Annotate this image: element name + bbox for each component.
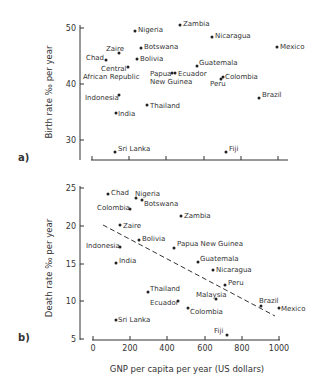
point-label: Chad — [86, 54, 104, 62]
point-label: Bolivia — [140, 55, 163, 63]
data-point — [138, 239, 141, 242]
point-label: Mexico — [280, 43, 304, 51]
point-label: Brazil — [262, 91, 282, 99]
points-b: Chad Nigeria Botswana Colombia Zambia Za… — [86, 189, 305, 337]
data-point — [134, 30, 137, 33]
y-tick-label: 50 — [66, 24, 76, 33]
point-label: Indonesia — [85, 94, 119, 102]
data-point — [226, 334, 229, 337]
y-tick-label: 15 — [66, 260, 76, 269]
data-point — [173, 247, 176, 250]
point-label: India — [119, 257, 136, 265]
point-label: Bolivia — [142, 235, 165, 243]
point-label: Malaysia — [196, 291, 227, 299]
point-label: Thailand — [149, 285, 180, 293]
points-a: Nigeria Zambia Nicaragua Mexico Botswana… — [83, 20, 304, 154]
y-tick-label: 10 — [66, 297, 76, 306]
point-label: African Republic — [83, 73, 140, 81]
x-tick-label: 0 — [90, 344, 95, 353]
data-point — [276, 46, 279, 49]
y-tick-label: 5 — [71, 335, 76, 344]
point-label: Ecuador — [150, 299, 179, 307]
data-point — [127, 66, 130, 69]
point-label: Guatemala — [199, 59, 238, 67]
point-label: Sri Lanka — [118, 316, 150, 324]
data-point — [105, 59, 108, 62]
data-point — [174, 72, 177, 75]
data-point — [115, 262, 118, 265]
y-axis-title-b: Death rate ‰ per year — [44, 218, 54, 317]
data-point — [107, 193, 110, 196]
y-tick-label: 25 — [66, 184, 76, 193]
point-label: Chad — [111, 189, 129, 197]
data-point — [140, 47, 143, 50]
point-label: Zambia — [183, 20, 210, 28]
point-label: Ecuador — [178, 70, 207, 78]
panel-label-a: a) — [18, 152, 29, 163]
point-label: Thailand — [149, 102, 180, 110]
panel-b-death-rate: 25 20 15 10 5 Death rate ‰ per year 0 20… — [18, 184, 305, 374]
data-point — [136, 58, 139, 61]
x-tick-label: 1000 — [269, 344, 289, 353]
point-label: Zaire — [106, 45, 124, 53]
point-label: Nigeria — [138, 26, 163, 34]
point-label: Zambia — [184, 212, 211, 220]
point-label: Botswana — [144, 43, 178, 51]
y-tick-label: 40 — [66, 80, 76, 89]
point-label: Guatemala — [200, 255, 239, 263]
data-point — [146, 104, 149, 107]
point-label: Colombia — [97, 204, 130, 212]
panel-a-birth-rate: 50 40 30 Birth rate ‰ per year a) Nigeri… — [18, 20, 304, 163]
point-label: Sri Lanka — [118, 145, 150, 153]
data-point — [224, 284, 227, 287]
point-label: Nicaragua — [216, 266, 252, 274]
x-tick-label: 600 — [197, 344, 212, 353]
point-label: Peru — [210, 80, 226, 88]
x-tick-label: 800 — [234, 344, 249, 353]
y-axis-title-a: Birth rate ‰ per year — [44, 45, 54, 138]
x-axis-title: GNP per capita per year (US dollars) — [110, 364, 264, 374]
y-tick-label: 30 — [66, 136, 76, 145]
point-label: Brazil — [259, 297, 279, 305]
data-point — [211, 36, 214, 39]
point-label: Peru — [228, 279, 244, 287]
point-label: New Guinea — [150, 78, 192, 86]
point-label: Papua — [150, 70, 171, 78]
point-label: Zaire — [123, 222, 141, 230]
figure: 50 40 30 Birth rate ‰ per year a) Nigeri… — [0, 0, 318, 384]
data-point — [258, 97, 261, 100]
data-point — [179, 24, 182, 27]
x-tick-label: 200 — [122, 344, 137, 353]
point-label: Nicaragua — [215, 32, 251, 40]
point-label: Indonesia — [86, 242, 120, 250]
data-point — [212, 269, 215, 272]
y-tick-label: 20 — [66, 222, 76, 231]
point-label: India — [118, 110, 135, 118]
point-label: Papua New Guinea — [177, 240, 243, 248]
data-point — [119, 224, 122, 227]
panel-label-b: b) — [18, 332, 30, 343]
point-label: Nigeria — [135, 190, 160, 198]
point-label: Mexico — [281, 305, 305, 313]
point-label: Colombia — [225, 73, 258, 81]
x-tick-label: 400 — [159, 344, 174, 353]
point-label: Fiji — [229, 145, 238, 153]
point-label: Fiji — [214, 327, 223, 335]
data-point — [114, 151, 117, 154]
point-label: Colombia — [190, 308, 223, 316]
point-label: Central — [101, 65, 127, 73]
data-point — [225, 151, 228, 154]
point-label: Botswana — [144, 200, 178, 208]
data-point — [180, 215, 183, 218]
